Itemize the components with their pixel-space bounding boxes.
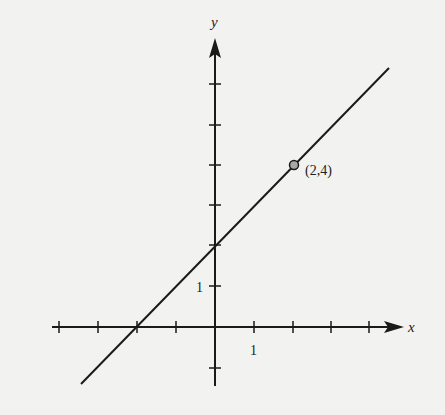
x-tick-label: 1 [250,343,257,358]
x-axis-label: x [407,319,415,335]
y-tick-label: 1 [196,280,203,295]
point-marker [290,161,299,170]
point-label: (2,4) [305,163,332,179]
y-axis-label: y [209,14,218,30]
coordinate-plane: (2,4) x y 1 1 [0,0,445,415]
graph-line [81,68,389,384]
